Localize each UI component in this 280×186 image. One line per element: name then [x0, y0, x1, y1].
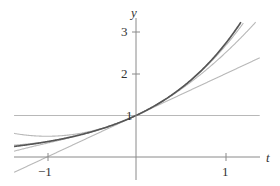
taylor-plot — [0, 0, 280, 186]
x-axis-label: t — [266, 151, 270, 164]
curve-p3-t- — [14, 23, 243, 151]
curve-p4-t- — [14, 23, 241, 145]
y-axis-label: y — [131, 6, 137, 19]
y-tick-label-1: 1 — [126, 109, 133, 122]
y-tick-label-2: 2 — [121, 67, 128, 80]
x-tick-label-1: 1 — [222, 165, 229, 178]
y-tick-label-3: 3 — [121, 25, 128, 38]
x-tick-label-neg1: −1 — [38, 165, 52, 178]
curves-group — [14, 22, 260, 172]
curve-e-t — [14, 22, 241, 146]
curve-p2-t-1-t-t-2-2 — [14, 22, 256, 136]
